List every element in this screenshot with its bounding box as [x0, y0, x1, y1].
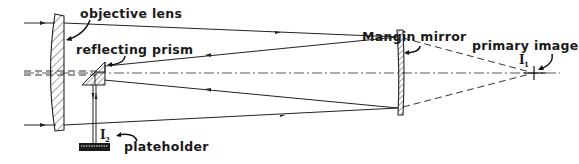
dashed-ray-lower	[403, 74, 530, 107]
incoming-ray-lower	[24, 123, 56, 127]
return-ray-lower	[104, 80, 398, 108]
optical-diagram: objective lens reflecting prism Mangin m…	[0, 0, 579, 164]
arrow-icon	[92, 93, 95, 99]
objective-lens	[51, 14, 65, 131]
rays-to-plateholder	[92, 85, 98, 143]
label-reflecting-prism: reflecting prism	[76, 42, 193, 57]
arrow-icon	[66, 36, 72, 41]
arrow-icon	[280, 115, 286, 117]
label-primary-image: primary image	[472, 38, 579, 53]
arrow-icon	[404, 50, 409, 55]
label-mangin-mirror: Mangin mirror	[362, 29, 467, 44]
plateholder	[79, 143, 110, 151]
label-plateholder: plateholder	[124, 139, 209, 154]
converging-ray-lower	[64, 108, 398, 125]
label-objective-lens: objective lens	[80, 6, 182, 21]
converging-ray-upper	[64, 23, 398, 37]
arrow-icon	[116, 132, 121, 137]
label-secondary-image-subscript: 2	[105, 135, 110, 144]
arrow-icon	[95, 93, 98, 99]
reflecting-prism	[82, 62, 105, 85]
incoming-ray-upper	[24, 21, 55, 25]
arrow-icon	[275, 31, 281, 34]
arrow-icon	[40, 21, 46, 25]
arrow-icon	[40, 123, 46, 127]
label-primary-image-subscript: 1	[524, 60, 529, 69]
